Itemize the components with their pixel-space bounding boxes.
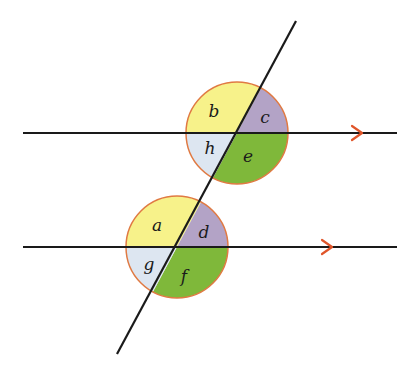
angle-label-a: a	[152, 215, 162, 235]
angle-label-h: h	[205, 138, 216, 158]
angle-label-d: d	[199, 222, 210, 242]
angle-label-e: e	[243, 146, 253, 166]
angle-label-b: b	[209, 101, 220, 121]
transversal-line	[117, 21, 296, 354]
angle-label-c: c	[260, 107, 270, 127]
parallel-lines-diagram: b c h e a d g f	[0, 0, 414, 371]
angle-label-g: g	[144, 254, 155, 274]
